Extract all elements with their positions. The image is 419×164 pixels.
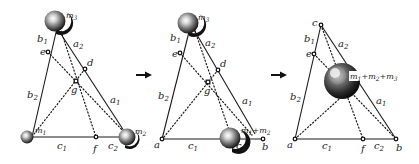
svg-text:b1: b1 bbox=[304, 33, 315, 46]
point-a bbox=[160, 137, 164, 141]
mass-m2: m2 bbox=[119, 127, 147, 149]
point-e bbox=[312, 52, 316, 56]
point-a bbox=[293, 137, 297, 141]
svg-text:e: e bbox=[40, 46, 46, 57]
svg-text:f: f bbox=[92, 143, 99, 154]
svg-text:a1: a1 bbox=[376, 95, 386, 108]
svg-text:g: g bbox=[71, 84, 77, 95]
svg-text:a2: a2 bbox=[338, 38, 349, 51]
svg-text:f: f bbox=[360, 143, 367, 154]
point-c bbox=[319, 23, 323, 27]
svg-text:c1: c1 bbox=[188, 140, 198, 153]
svg-text:a1: a1 bbox=[110, 94, 120, 107]
point-g bbox=[74, 79, 78, 83]
svg-text:c: c bbox=[312, 17, 318, 28]
svg-text:c1: c1 bbox=[57, 140, 67, 153]
svg-text:e: e bbox=[172, 48, 178, 59]
point-f bbox=[94, 135, 98, 139]
svg-text:e: e bbox=[306, 48, 312, 59]
svg-text:b2: b2 bbox=[290, 91, 301, 104]
svg-text:m1+m2+m3: m1+m2+m3 bbox=[350, 72, 398, 82]
mass-m3: m3 bbox=[178, 13, 210, 38]
svg-text:b2: b2 bbox=[27, 89, 38, 102]
svg-text:c2: c2 bbox=[108, 140, 119, 153]
point-e bbox=[46, 50, 50, 54]
svg-text:b1: b1 bbox=[170, 32, 181, 45]
panel-3: m1+m2+m3 c b1 a2 e b2 a1 a c1 f c2 b bbox=[287, 17, 417, 154]
svg-text:m3: m3 bbox=[198, 13, 210, 23]
svg-text:c2: c2 bbox=[374, 140, 385, 153]
center-of-mass-diagram: m3 m1 m2 b1 a2 e d g b2 a1 c1 f c2 bbox=[0, 0, 419, 164]
svg-text:a: a bbox=[154, 139, 160, 150]
svg-text:b2: b2 bbox=[158, 90, 169, 103]
svg-text:a2: a2 bbox=[205, 37, 216, 50]
panel-1: m3 m1 m2 b1 a2 e d g b2 a1 c1 f c2 bbox=[21, 11, 147, 155]
arrow-right-icon bbox=[136, 72, 152, 79]
svg-text:m2: m2 bbox=[135, 127, 147, 137]
svg-text:m1: m1 bbox=[35, 126, 46, 136]
svg-text:a2: a2 bbox=[73, 38, 84, 51]
point-e bbox=[178, 51, 182, 55]
arrow-right-icon bbox=[271, 72, 287, 79]
svg-text:a1: a1 bbox=[242, 95, 252, 108]
svg-text:b: b bbox=[396, 142, 402, 153]
point-b bbox=[394, 137, 398, 141]
point-f bbox=[361, 137, 365, 141]
mass-m1-plus-m2-plus-m3: m1+m2+m3 bbox=[324, 63, 417, 99]
svg-text:m1+m2: m1+m2 bbox=[241, 126, 271, 136]
svg-text:d: d bbox=[87, 57, 93, 68]
panel-2: m3 m1+m2 b1 a2 e d g b2 a1 a c1 c2 b bbox=[154, 13, 271, 154]
svg-text:m3: m3 bbox=[66, 11, 78, 21]
svg-text:b: b bbox=[262, 141, 268, 152]
svg-text:d: d bbox=[220, 58, 226, 69]
svg-text:b1: b1 bbox=[37, 33, 48, 46]
svg-text:g: g bbox=[204, 85, 210, 96]
point-g bbox=[206, 80, 210, 84]
svg-text:c1: c1 bbox=[322, 140, 332, 153]
mass-m3: m3 bbox=[45, 11, 78, 36]
svg-text:a: a bbox=[287, 139, 293, 150]
